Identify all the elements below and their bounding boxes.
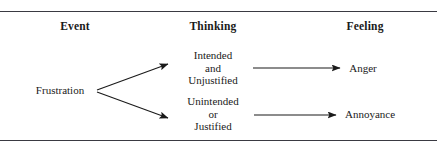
- node-intended: Intended and Unjustified: [188, 49, 238, 87]
- node-unintended-line-3: Justified: [187, 120, 238, 133]
- edge-frustration-to-intended: [97, 64, 168, 90]
- node-annoyance: Annoyance: [345, 108, 395, 121]
- node-unintended-line-1: Unintended: [187, 95, 238, 108]
- edge-frustration-to-unintended: [97, 92, 168, 118]
- node-unintended: Unintended or Justified: [187, 95, 238, 133]
- node-intended-line-2: and: [188, 62, 238, 75]
- node-frustration: Frustration: [36, 84, 84, 97]
- node-anger: Anger: [349, 62, 377, 75]
- node-unintended-line-2: or: [187, 108, 238, 121]
- node-annoyance-line-1: Annoyance: [345, 108, 395, 121]
- flow-diagram-figure: Event Thinking Feeling Frustration Inten…: [0, 0, 437, 148]
- node-intended-line-3: Unjustified: [188, 74, 238, 87]
- node-intended-line-1: Intended: [188, 49, 238, 62]
- node-frustration-line-1: Frustration: [36, 84, 84, 97]
- node-anger-line-1: Anger: [349, 62, 377, 75]
